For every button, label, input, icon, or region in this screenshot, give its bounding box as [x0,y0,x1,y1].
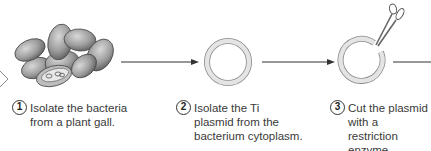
caption-line: from a plant gall. [30,115,127,129]
step-number-badge: 2 [176,100,191,115]
bacteria-cluster-icon [11,22,119,90]
plasmid-ring-icon [207,41,249,83]
step-2-caption: 2 Isolate the Ti plasmid from the bacter… [176,101,303,143]
step-3-caption: 3 Cut the plasmid with a restriction enz… [330,101,431,151]
step-1-caption: 1 Isolate the bacteria from a plant gall… [12,101,127,129]
arrow-step1-to-step2 [121,59,199,65]
caption-line: Cut the plasmid [348,101,431,115]
incoming-arrow-icon [0,71,8,87]
caption-line: enzyme. [348,143,431,151]
arrow-step2-to-step3 [262,59,335,65]
caption-line: Isolate the bacteria [30,101,127,115]
caption-line: Isolate the Ti [194,101,303,115]
caption-line: with a restriction [348,115,431,143]
caption-line: plasmid from the [194,115,303,129]
cut-plasmid-scissors-icon [341,3,406,81]
step-number-badge: 3 [330,100,345,115]
step-number-badge: 1 [12,100,27,115]
caption-line: bacterium cytoplasm. [194,129,303,143]
